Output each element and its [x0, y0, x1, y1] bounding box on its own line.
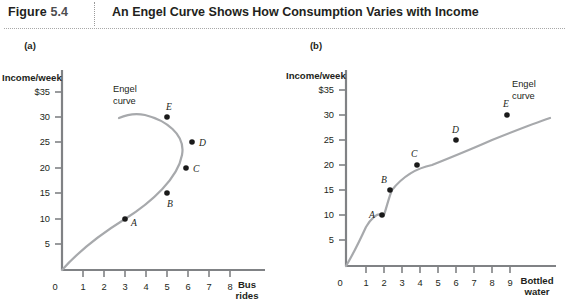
data-point-a-A [122, 216, 128, 222]
header-horizontal-rule [4, 28, 565, 29]
data-point-a-B [164, 190, 170, 196]
figure-header: Figure 5.4 An Engel Curve Shows How Cons… [0, 0, 569, 30]
x-tick-label-b-2: 3 [399, 278, 404, 288]
y-tick-label-b-4: 15 [324, 185, 334, 195]
engel-curve-annotation-a-line1: Engel [113, 84, 137, 94]
data-point-b-A [379, 212, 385, 218]
origin-label-a: 0 [52, 282, 57, 292]
engel-curve-annotation-b-line2: curve [512, 91, 535, 101]
x-tick-label-b-7: 8 [489, 278, 494, 288]
figure-word: Figure [8, 5, 47, 19]
y-tick-label-a-3: 20 [40, 163, 50, 173]
data-point-label-b-B: B [381, 174, 387, 185]
x-axis-title-b-line2: water [523, 286, 549, 297]
data-point-label-a-E: E [165, 101, 172, 112]
data-point-label-a-D: D [198, 137, 206, 148]
data-point-label-b-C: C [411, 148, 418, 159]
x-tick-label-b-1: 2 [381, 278, 386, 288]
x-tick-label-a-1: 2 [101, 282, 106, 292]
y-tick-label-a-0: $35 [34, 87, 50, 97]
data-point-b-D [453, 137, 459, 143]
engel-curve-path-b [346, 118, 550, 266]
data-point-b-B [387, 187, 393, 193]
y-tick-label-b-0: $35 [318, 85, 334, 95]
figure-title: An Engel Curve Shows How Consumption Var… [112, 5, 479, 19]
header-vertical-divider [94, 2, 95, 26]
chart-panel-b: (b) Income/week [284, 34, 568, 301]
x-tick-label-b-8: 9 [507, 278, 512, 288]
x-tick-label-b-5: 6 [453, 278, 458, 288]
y-tick-label-b-1: 30 [324, 110, 334, 120]
data-point-a-E [164, 114, 170, 120]
chart-panel-a: (a) Income/week $3 [0, 34, 284, 301]
x-tick-label-b-4: 5 [435, 278, 440, 288]
y-tick-label-a-6: 5 [45, 239, 50, 249]
y-tick-label-a-1: 30 [40, 112, 50, 122]
x-tick-label-a-6: 7 [206, 282, 211, 292]
y-tick-label-a-4: 15 [40, 188, 50, 198]
y-tick-label-b-6: 5 [329, 235, 334, 245]
x-tick-label-a-4: 5 [164, 282, 169, 292]
data-point-label-b-D: D [451, 124, 459, 135]
data-point-b-C [414, 162, 420, 168]
x-tick-label-a-5: 6 [185, 282, 190, 292]
x-tick-label-b-3: 4 [417, 278, 422, 288]
x-axis-title-b-line1: Bottled [520, 275, 553, 286]
x-axis-title-a-line1: Bus [238, 279, 256, 290]
engel-curve-annotation-a-line2: curve [113, 96, 136, 106]
x-axis-title-a-line2: rides [236, 290, 259, 301]
x-tick-label-a-7: 8 [227, 282, 232, 292]
data-point-label-b-E: E [502, 98, 509, 109]
y-tick-label-b-3: 20 [324, 160, 334, 170]
y-axis-title-a: Income/week [2, 72, 62, 83]
engel-curve-chart-a: Income/week $35 30 25 20 15 10 5 0 1 2 3… [0, 34, 284, 301]
figure-number-value: 5.4 [50, 5, 68, 19]
y-tick-label-a-2: 25 [40, 137, 50, 147]
y-tick-label-b-5: 10 [324, 210, 334, 220]
x-tick-label-a-2: 3 [122, 282, 127, 292]
origin-label-b: 0 [337, 278, 342, 288]
data-points-a [122, 114, 195, 222]
data-point-b-E [504, 112, 510, 118]
data-point-label-a-A: A [130, 217, 137, 228]
data-point-label-a-C: C [193, 163, 200, 174]
x-tick-label-a-0: 1 [80, 282, 85, 292]
data-points-b [379, 112, 510, 218]
x-tick-label-b-0: 1 [363, 278, 368, 288]
y-axis-title-b: Income/week [286, 70, 346, 81]
data-point-label-b-A: A [368, 209, 375, 220]
data-point-label-a-B: B [167, 198, 173, 209]
engel-curve-chart-b: Income/week $35 30 25 20 15 10 5 0 1 2 3… [284, 34, 568, 301]
data-point-a-D [189, 139, 195, 145]
x-tick-label-b-6: 7 [471, 278, 476, 288]
x-tick-label-a-3: 4 [143, 282, 148, 292]
y-tick-label-a-5: 10 [40, 214, 50, 224]
y-tick-label-b-2: 25 [324, 135, 334, 145]
figure-number: Figure 5.4 [8, 5, 68, 19]
data-point-a-C [183, 165, 189, 171]
engel-curve-annotation-b-line1: Engel [512, 79, 536, 89]
